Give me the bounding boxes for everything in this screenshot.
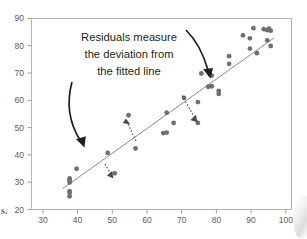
scatter-point <box>133 146 138 151</box>
x-tick-50: 50 <box>108 210 118 226</box>
y-tick-50: 50 <box>15 123 32 133</box>
scatter-point <box>241 33 246 38</box>
x-tick-60: 60 <box>142 210 152 226</box>
x-tick-label: 60 <box>142 215 152 225</box>
scatter-point <box>248 46 253 51</box>
y-tick-label: 30 <box>15 177 25 187</box>
scatter-point <box>268 44 273 49</box>
x-tick-label: 100 <box>279 215 293 225</box>
scatter-point <box>254 51 259 56</box>
x-axis: 30 40 50 60 70 80 <box>38 210 293 226</box>
y-tick-label: 40 <box>15 150 25 160</box>
y-tick-80: 80 <box>15 41 32 51</box>
annotation-line-3: the fitted line <box>97 65 160 77</box>
scatter-point <box>112 171 117 176</box>
scatter-point <box>227 61 232 66</box>
y-tick-70: 70 <box>15 68 32 78</box>
y-tick-40: 40 <box>15 150 32 160</box>
annotation-line-1: Residuals measure <box>81 31 177 43</box>
y-axis: 20 30 40 50 60 70 <box>15 13 32 214</box>
y-tick-label: 90 <box>15 13 25 23</box>
scatter-point <box>67 176 72 181</box>
y-tick-label: 70 <box>15 68 25 78</box>
annotation-line-2: the deviation from <box>85 48 174 60</box>
x-tick-40: 40 <box>73 210 83 226</box>
x-tick-100: 100 <box>279 210 293 226</box>
scatter-point <box>171 121 176 126</box>
y-tick-60: 60 <box>15 95 32 105</box>
scatter-point <box>248 36 253 41</box>
scatter-point <box>74 166 79 171</box>
x-tick-label: 50 <box>108 215 118 225</box>
scatter-point <box>126 113 131 118</box>
scatter-point <box>209 84 214 89</box>
scatter-point <box>199 71 204 76</box>
y-tick-label: 80 <box>15 41 25 51</box>
scatter-point <box>251 26 256 31</box>
y-tick-30: 30 <box>15 177 32 187</box>
page-curl-artifact <box>293 196 307 238</box>
x-tick-label: 40 <box>73 215 83 225</box>
scatter-plot-figure: 20 30 40 50 60 70 <box>0 0 307 239</box>
x-tick-70: 70 <box>177 210 187 226</box>
scatter-point <box>105 151 110 156</box>
residuals-scatter-chart: 20 30 40 50 60 70 <box>0 0 307 239</box>
scatter-point <box>67 189 72 194</box>
scatter-point <box>196 100 201 105</box>
y-tick-90: 90 <box>15 13 32 23</box>
y-tick-20: 20 <box>15 205 32 215</box>
x-tick-label: 80 <box>212 215 222 225</box>
x-tick-label: 70 <box>177 215 187 225</box>
scatter-point <box>265 38 270 43</box>
scatter-point <box>164 130 169 135</box>
x-tick-90: 90 <box>246 210 256 226</box>
y-tick-label: 60 <box>15 95 25 105</box>
x-tick-80: 80 <box>212 210 222 226</box>
y-tick-label: 50 <box>15 123 25 133</box>
scatter-point <box>164 110 169 115</box>
scatter-point <box>268 28 273 33</box>
scatter-point <box>216 91 221 96</box>
y-tick-label: 20 <box>15 205 25 215</box>
scatter-point <box>227 54 232 59</box>
x-tick-30: 30 <box>38 210 48 226</box>
x-tick-label: 90 <box>246 215 256 225</box>
x-tick-label: 30 <box>38 215 48 225</box>
page-text-fragment: s. <box>1 205 8 216</box>
